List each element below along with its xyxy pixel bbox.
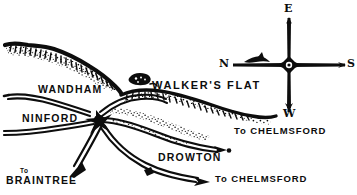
compass-label-right: S [347, 58, 355, 69]
sketch-map-figure: WANDHAM NINFORD WALKER'S FLAT DROWTON To… [0, 0, 357, 195]
compass-rose [233, 17, 346, 112]
label-to-braintree: To BRAINTREE [6, 168, 77, 185]
label-ninford: NINFORD [22, 113, 78, 124]
label-drowton: DROWTON [158, 152, 222, 163]
label-to-chelmsford-lower: To CHELMSFORD [215, 174, 307, 184]
compass-label-top: E [284, 3, 292, 14]
compass-label-bottom: W [283, 108, 295, 119]
road-braintree [74, 126, 101, 167]
label-walkers-flat: WALKER'S FLAT [152, 80, 261, 91]
map-drawing [0, 0, 357, 195]
label-to-braintree-place: BRAINTREE [6, 175, 77, 186]
compass-label-left: N [219, 58, 229, 69]
label-wandham: WANDHAM [38, 84, 102, 95]
label-to-chelmsford-upper: To CHELMSFORD [234, 126, 326, 136]
